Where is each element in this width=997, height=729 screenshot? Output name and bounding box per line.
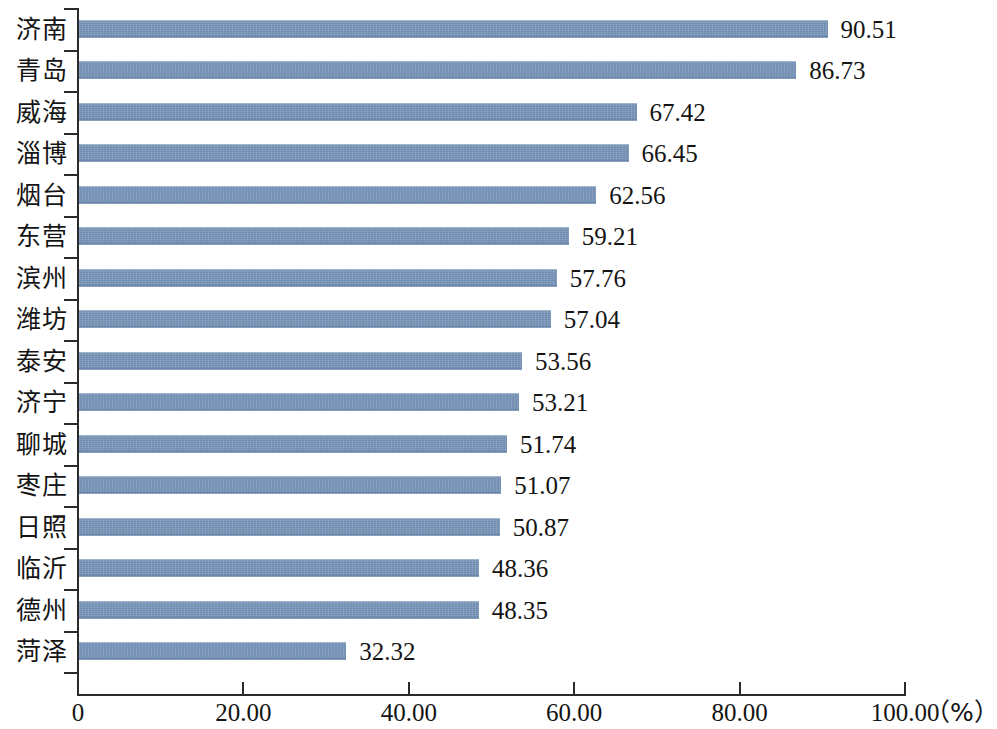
category-label: 淄博 <box>16 141 68 166</box>
bar-value-label: 53.21 <box>532 390 588 415</box>
category-label: 泰安 <box>16 348 68 373</box>
bar <box>79 20 828 37</box>
category-label: 青岛 <box>16 58 68 83</box>
bar <box>79 269 557 286</box>
bar-row: 潍坊57.04 <box>0 299 997 341</box>
y-axis-tick <box>64 423 78 425</box>
category-label: 枣庄 <box>16 473 68 498</box>
y-axis-tick <box>64 50 78 52</box>
bar-and-value: 90.51 <box>79 20 897 37</box>
bar-value-label: 51.07 <box>514 473 570 498</box>
category-label: 烟台 <box>16 182 68 207</box>
bar-row: 济宁53.21 <box>0 382 997 424</box>
bar <box>79 186 596 203</box>
y-axis-tick <box>64 340 78 342</box>
y-axis-tick <box>64 216 78 218</box>
y-axis-tick <box>64 133 78 135</box>
y-axis-tick <box>64 257 78 259</box>
y-axis-tick <box>64 174 78 176</box>
y-axis-tick <box>64 589 78 591</box>
bar-row: 枣庄51.07 <box>0 465 997 507</box>
y-axis-tick <box>64 672 78 674</box>
y-axis-tick <box>64 465 78 467</box>
bar <box>79 477 501 494</box>
bar-and-value: 66.45 <box>79 145 698 162</box>
x-axis-tick <box>739 682 741 695</box>
category-label: 菏泽 <box>16 639 68 664</box>
bar-row: 德州48.35 <box>0 589 997 631</box>
bar-chart: 济南90.51青岛86.73威海67.42淄博66.45烟台62.56东营59.… <box>0 0 997 729</box>
category-label: 潍坊 <box>16 307 68 332</box>
bar-row: 东营59.21 <box>0 216 997 258</box>
bar-value-label: 67.42 <box>650 99 706 124</box>
x-axis-tick-label: 20.00 <box>215 700 271 725</box>
bar-row: 菏泽32.32 <box>0 631 997 673</box>
bar-and-value: 51.07 <box>79 477 571 494</box>
category-label: 德州 <box>16 597 68 622</box>
bar-row: 日照50.87 <box>0 506 997 548</box>
bar-and-value: 57.04 <box>79 311 620 328</box>
bar-row: 威海67.42 <box>0 91 997 133</box>
bar <box>79 103 637 120</box>
bar-and-value: 62.56 <box>79 186 666 203</box>
x-axis-tick-label: 60.00 <box>546 700 602 725</box>
x-axis-tick-label: 0 <box>72 700 85 725</box>
category-label: 日照 <box>16 514 68 539</box>
category-label: 滨州 <box>16 265 68 290</box>
y-axis-tick <box>64 506 78 508</box>
bar-and-value: 86.73 <box>79 62 866 79</box>
bar-row: 济南90.51 <box>0 8 997 50</box>
bar-row: 烟台62.56 <box>0 174 997 216</box>
bar-value-label: 48.36 <box>492 556 548 581</box>
bar-value-label: 51.74 <box>520 431 576 456</box>
category-label: 聊城 <box>16 431 68 456</box>
category-label: 东营 <box>16 224 68 249</box>
category-label: 威海 <box>16 99 68 124</box>
bar-value-label: 59.21 <box>582 224 638 249</box>
bar-value-label: 48.35 <box>492 597 548 622</box>
bar <box>79 394 519 411</box>
bar-value-label: 53.56 <box>535 348 591 373</box>
bar-and-value: 32.32 <box>79 643 416 660</box>
bar-row: 滨州57.76 <box>0 257 997 299</box>
category-label: 临沂 <box>16 556 68 581</box>
bar <box>79 643 346 660</box>
bar-and-value: 57.76 <box>79 269 626 286</box>
bar-row: 淄博66.45 <box>0 133 997 175</box>
y-axis-tick <box>64 382 78 384</box>
category-label: 济宁 <box>16 390 68 415</box>
bar-and-value: 50.87 <box>79 518 569 535</box>
y-axis-tick <box>64 8 78 10</box>
x-axis-tick-label: 80.00 <box>711 700 767 725</box>
bar-and-value: 48.35 <box>79 601 548 618</box>
y-axis-tick <box>64 91 78 93</box>
x-axis-tick <box>242 682 244 695</box>
bar-and-value: 59.21 <box>79 228 638 245</box>
bar-row: 临沂48.36 <box>0 548 997 590</box>
x-axis-tick <box>904 682 906 695</box>
x-axis-line <box>77 694 906 696</box>
bar <box>79 311 551 328</box>
y-axis-tick <box>64 631 78 633</box>
bar-row: 聊城51.74 <box>0 423 997 465</box>
bar <box>79 601 479 618</box>
bar-row: 青岛86.73 <box>0 50 997 92</box>
bar <box>79 560 479 577</box>
category-label: 济南 <box>16 16 68 41</box>
bar-and-value: 67.42 <box>79 103 706 120</box>
bar-and-value: 48.36 <box>79 560 548 577</box>
bar-value-label: 32.32 <box>359 639 415 664</box>
bar <box>79 145 629 162</box>
x-axis-tick <box>573 682 575 695</box>
bar-and-value: 53.56 <box>79 352 591 369</box>
bar-value-label: 86.73 <box>809 58 865 83</box>
y-axis-tick <box>64 548 78 550</box>
bar <box>79 352 522 369</box>
bar-and-value: 53.21 <box>79 394 588 411</box>
bar <box>79 518 500 535</box>
bar-value-label: 50.87 <box>513 514 569 539</box>
bar-row: 泰安53.56 <box>0 340 997 382</box>
x-axis-tick <box>408 682 410 695</box>
bar <box>79 435 507 452</box>
bar <box>79 62 796 79</box>
